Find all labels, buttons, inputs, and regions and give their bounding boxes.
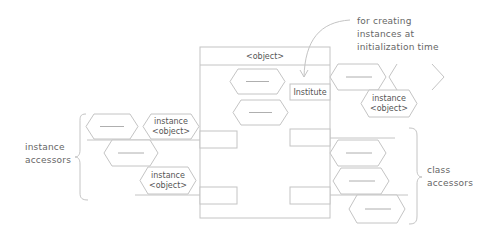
instance-accessor-slot-1: [200, 131, 237, 148]
class-accessors-label-2: accessors: [427, 178, 473, 188]
object-label: <object>: [152, 127, 190, 136]
object-label: <object>: [370, 104, 408, 113]
class-accessors-label-1: class: [427, 165, 450, 175]
left-slot-hexagon-1: [86, 114, 138, 139]
institute-box: Institute: [290, 84, 330, 100]
top-right-slot-hexagon: [330, 64, 386, 90]
top-right-instance-object: instance <object>: [361, 90, 417, 117]
instance-label: instance: [154, 117, 188, 126]
right-slot-hexagon-1: [330, 140, 386, 166]
object-diagram: <object> Institute instance <object> ins…: [0, 0, 488, 233]
annotation-line-1: for creating: [357, 16, 412, 26]
class-accessor-slot-1: [290, 129, 330, 146]
left-instance-object-2: instance <object>: [140, 167, 196, 194]
instance-label: instance: [372, 94, 406, 103]
right-slot-hexagon-3: [349, 195, 405, 223]
instance-accessors-brace: instance accessors: [25, 114, 88, 200]
object-label: <object>: [149, 181, 187, 190]
left-instance-object-1: instance <object>: [143, 114, 199, 139]
chevron-right-icon: [432, 64, 444, 90]
annotation-line-2: instances at: [357, 29, 414, 39]
left-slot-hexagon-2: [104, 140, 158, 166]
instance-accessor-slot-2: [200, 187, 237, 204]
annotation-line-3: initialization time: [357, 42, 439, 52]
right-slot-hexagon-2: [333, 168, 389, 194]
instance-label: instance: [151, 171, 185, 180]
chevron-left-icon: [389, 64, 397, 90]
instance-accessors-label-1: instance: [25, 142, 65, 152]
class-accessor-slot-2: [290, 187, 330, 204]
inner-slot-1: [230, 69, 285, 94]
class-accessors-brace: class accessors: [409, 128, 473, 224]
inner-slot-2: [233, 100, 288, 125]
institute-label: Institute: [293, 88, 326, 97]
instance-accessors-label-2: accessors: [25, 155, 71, 165]
right-brace-icon: [409, 128, 422, 224]
object-box-title: <object>: [246, 52, 284, 61]
